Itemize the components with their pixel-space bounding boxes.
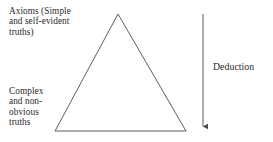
label-deduction: Deduction	[213, 61, 273, 72]
diagram-canvas: Axioms (Simple and self-evident truths) …	[0, 0, 273, 142]
label-complex-truths: Complex and non- obvious truths	[9, 86, 69, 128]
label-axioms: Axioms (Simple and self-evident truths)	[9, 6, 101, 37]
